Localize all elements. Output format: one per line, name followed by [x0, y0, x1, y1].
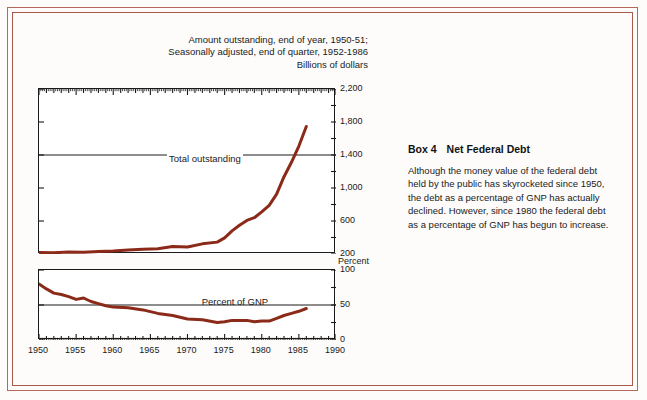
x-axis-tick-label: 1990 — [321, 345, 349, 355]
box4-title: Net Federal Debt — [447, 143, 530, 155]
x-axis-tick-label: 1970 — [173, 345, 201, 355]
x-axis-tick-label: 1965 — [135, 345, 163, 355]
chart-title: Amount outstanding, end of year, 1950-51… — [20, 34, 368, 71]
y-axis-tick-label: 2,200 — [340, 84, 363, 93]
y-axis-tick-label: 1,400 — [340, 150, 363, 159]
top-chart-plot-area: Total outstanding — [38, 88, 335, 253]
x-axis-tick-label: 1960 — [98, 345, 126, 355]
box4-panel: Box 4Net Federal Debt Although the money… — [408, 143, 613, 231]
series-label-percent-of-gnp: Percent of GNP — [197, 296, 270, 307]
series-label-percent-of-gnp-text: Percent of GNP — [202, 296, 269, 307]
chart-title-line-3: Billions of dollars — [20, 59, 368, 71]
y-axis-tick-label: 600 — [340, 216, 355, 225]
top-chart-svg — [39, 89, 336, 254]
y-axis-tick-label: 50 — [340, 300, 350, 309]
x-axis-tick-label: 1975 — [210, 345, 238, 355]
y-axis-tick-label: 0 — [340, 335, 345, 344]
y-axis-tick-label: 1,000 — [340, 183, 363, 192]
box4-label: Box 4 — [408, 143, 437, 155]
y-axis-tick-label: 100 — [340, 265, 355, 274]
bottom-chart-svg — [39, 270, 336, 340]
page-canvas: Amount outstanding, end of year, 1950-51… — [0, 0, 647, 400]
page-bleed-artifact — [487, 1, 637, 8]
figure-net-federal-debt: Amount outstanding, end of year, 1950-51… — [20, 26, 390, 376]
x-axis-tick-label: 1955 — [61, 345, 89, 355]
chart-title-line-2: Seasonally adjusted, end of quarter, 195… — [20, 46, 368, 58]
box4-heading: Box 4Net Federal Debt — [408, 143, 613, 155]
chart-title-line-1: Amount outstanding, end of year, 1950-51… — [20, 34, 368, 46]
x-axis-tick-label: 1985 — [284, 345, 312, 355]
x-axis-tick-label: 1980 — [247, 345, 275, 355]
x-axis-tick-label: 1950 — [24, 345, 52, 355]
bottom-chart-plot-area: Percent of GNP — [38, 269, 335, 339]
box4-body-text: Although the money value of the federal … — [408, 164, 613, 231]
series-label-total-outstanding: Total outstanding — [167, 153, 243, 164]
y-axis-tick-label: 1,800 — [340, 117, 363, 126]
